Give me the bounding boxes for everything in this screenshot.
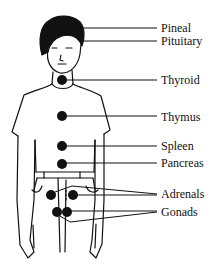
gonad-right-dot [62, 207, 72, 217]
adrenal-left-dot [46, 190, 56, 200]
label-thymus: Thymus [161, 111, 200, 123]
label-pituitary: Pituitary [161, 35, 202, 47]
shirt [12, 84, 110, 136]
label-pancreas: Pancreas [161, 157, 204, 169]
label-thyroid: Thyroid [161, 74, 200, 86]
right-arm [90, 134, 104, 258]
label-adrenals: Adrenals [161, 188, 204, 200]
spleen-dot [57, 141, 67, 151]
label-spleen: Spleen [161, 140, 194, 152]
adrenal-line-left [55, 186, 72, 192]
gonad-left-dot [52, 207, 62, 217]
waistband [36, 172, 94, 178]
hair [40, 16, 84, 55]
thyroid-dot [57, 75, 67, 85]
adrenal-right-dot [68, 190, 78, 200]
endocrine-diagram: Pineal Pituitary Thyroid Thymus Spleen P… [0, 0, 213, 274]
thymus-dot [57, 111, 67, 121]
pancreas-dot [57, 159, 67, 169]
left-arm [17, 136, 35, 258]
label-gonads: Gonads [161, 206, 198, 218]
label-pineal: Pineal [161, 22, 191, 34]
